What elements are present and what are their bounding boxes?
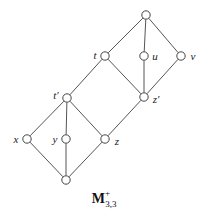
caption-base: M [92,191,105,206]
caption-superscript: + [105,188,110,198]
lattice-diagram [0,0,208,214]
node-label-v: v [191,51,196,62]
caption-subscript: 3,3 [105,199,116,209]
graph-edge [108,101,140,136]
graph-edge [108,18,142,52]
graph-node-x[interactable] [23,135,31,143]
figure-container: tuvt′z′xyz M+3,3 [0,0,208,214]
node-label-u: u [152,51,158,62]
graph-edge [30,142,62,176]
graph-edge [144,20,146,51]
graph-edge [70,60,102,95]
node-label-zprime: z′ [153,94,160,105]
node-layer [23,11,185,184]
graph-node-y[interactable] [62,135,70,143]
node-label-t: t [93,50,96,61]
graph-node-tprime[interactable] [63,94,71,102]
graph-edge [108,59,140,93]
graph-node-top[interactable] [142,11,150,19]
graph-node-zprime[interactable] [140,93,148,101]
node-label-z: z [115,136,119,147]
graph-edge [66,103,67,134]
graph-node-v[interactable] [177,52,185,60]
graph-edge [70,102,101,136]
graph-edge [149,19,178,53]
graph-node-u[interactable] [140,52,148,60]
node-label-x: x [14,134,19,145]
graph-edge [30,101,63,135]
graph-edge [147,60,178,94]
graph-edge [69,142,101,176]
figure-caption: M+3,3 [0,190,208,208]
graph-node-bottom[interactable] [62,176,70,184]
node-label-tprime: t′ [53,90,58,101]
graph-node-t[interactable] [101,52,109,60]
node-label-y: y [53,134,58,145]
graph-node-z[interactable] [101,135,109,143]
